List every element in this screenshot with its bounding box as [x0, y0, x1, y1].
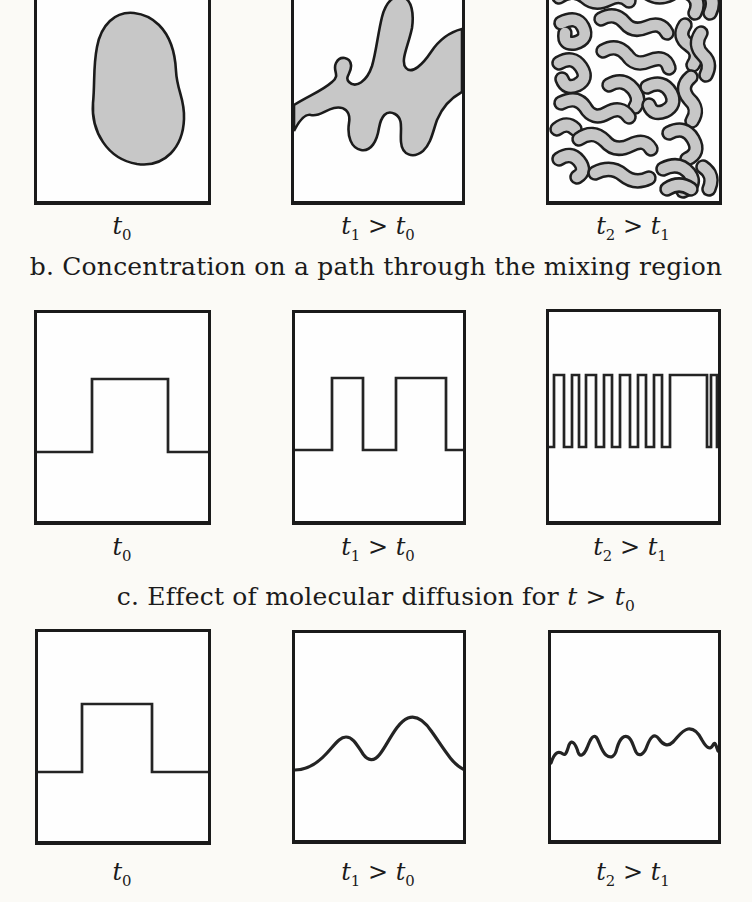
panel-a-t1: [291, 0, 465, 205]
diffusion-t0-drawing: [38, 632, 208, 841]
label-a-t1: t1 > t0: [341, 212, 415, 240]
blob-t0-drawing: [37, 0, 208, 201]
panel-a-t0: [34, 0, 211, 205]
panel-b-t2: [546, 309, 721, 525]
marble-t2-drawing: [549, 0, 719, 201]
diffusion-t2-drawing: [551, 633, 718, 840]
panel-c-t1: [292, 630, 466, 844]
concentration-t2-drawing: [549, 312, 718, 521]
diffusion-square-pulse: [38, 704, 208, 772]
label-b-t1: t1 > t0: [341, 533, 415, 561]
label-a-t2: t2 > t1: [596, 212, 670, 240]
panel-b-t0: [34, 310, 211, 525]
section-b-header: b. Concentration on a path through the m…: [0, 252, 752, 281]
label-c-t2: t2 > t1: [596, 858, 670, 886]
section-c-header: c. Effect of molecular diffusion for t >…: [0, 582, 752, 611]
blob-shape-t1: [294, 0, 462, 155]
square-wave-t0: [37, 379, 208, 452]
smoothed-bumps-curve: [295, 717, 463, 770]
blob-shape-t0: [93, 13, 184, 165]
marble-pattern: [557, 0, 715, 191]
concentration-t0-drawing: [37, 313, 208, 521]
label-c-t1: t1 > t0: [341, 858, 415, 886]
square-wave-t2: [549, 375, 718, 447]
concentration-t1-drawing: [295, 313, 463, 521]
label-a-t0: t0: [112, 212, 131, 240]
panel-a-t2: [546, 0, 722, 205]
panel-c-t2: [548, 630, 721, 844]
blob-t1-drawing: [294, 0, 462, 201]
panel-c-t0: [35, 629, 211, 845]
fine-wiggle-curve: [551, 729, 718, 763]
label-b-t2: t2 > t1: [593, 533, 667, 561]
panel-b-t1: [292, 310, 466, 525]
label-b-t0: t0: [112, 533, 131, 561]
figure-page: t0 t1 > t0 t2 > t1 b. Concentration on a…: [0, 0, 752, 902]
label-c-t0: t0: [112, 858, 131, 886]
diffusion-t1-drawing: [295, 633, 463, 840]
square-wave-t1: [295, 378, 463, 450]
